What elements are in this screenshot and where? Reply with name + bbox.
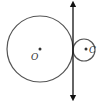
label-c: C <box>89 45 96 55</box>
label-o: O <box>31 52 39 62</box>
tangent-circles-diagram: O C <box>0 0 108 102</box>
center-c-dot <box>85 48 88 51</box>
center-o-dot <box>39 48 42 51</box>
